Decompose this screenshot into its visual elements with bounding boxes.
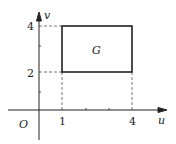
origin-label: O: [19, 118, 28, 131]
y-axis-arrow-icon: [37, 12, 42, 21]
guide-lines: [39, 26, 132, 110]
x-tick-label-1: 1: [59, 115, 66, 128]
y-tick-label-2: 2: [27, 67, 34, 80]
y-axis-label: v: [44, 9, 51, 22]
diagram-canvas: G v u O 1 4 4 2: [0, 0, 176, 144]
region-label: G: [92, 44, 101, 57]
x-tick-label-4: 4: [129, 115, 136, 128]
y-tick-label-4: 4: [27, 20, 34, 33]
x-axis-label: u: [158, 114, 165, 127]
x-axis-arrow-icon: [158, 108, 167, 113]
